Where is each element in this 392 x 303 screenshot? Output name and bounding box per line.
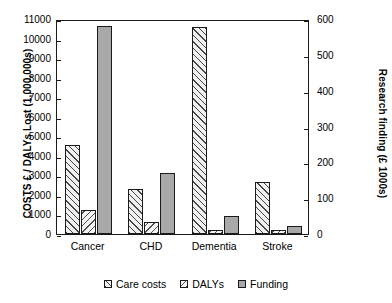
legend-item-dalys[interactable]: DALYs — [180, 278, 224, 290]
left-axis-tick-label: 3000 — [29, 171, 51, 181]
right-axis-tick-label: 200 — [317, 158, 334, 168]
left-axis-tick-label: 9000 — [29, 54, 51, 64]
right-axis-tick — [304, 57, 308, 58]
left-axis-tick — [57, 236, 61, 237]
x-axis-label-stroke: Stroke — [246, 240, 309, 252]
bar-care-costs-cancer — [65, 145, 80, 234]
left-axis-tick — [57, 80, 61, 81]
right-axis-tick-label: 500 — [317, 51, 334, 61]
left-axis-tick — [57, 99, 61, 100]
right-axis-tick — [304, 164, 308, 165]
left-axis-tick-label: 2000 — [29, 191, 51, 201]
right-axis-tick-label: 600 — [317, 15, 334, 25]
x-axis-label-chd: CHD — [119, 240, 182, 252]
legend-item-funding[interactable]: Funding — [238, 278, 288, 290]
legend-swatch-icon — [104, 280, 112, 288]
left-axis-tick-label: 10000 — [23, 35, 51, 45]
x-axis-label-cancer: Cancer — [56, 240, 119, 252]
bar-dalys-chd — [144, 222, 159, 234]
right-y-axis-title: Research finding (£ 1000s) — [377, 49, 388, 219]
left-axis-tick-label: 11000 — [24, 15, 51, 25]
bar-funding-dementia — [224, 216, 239, 234]
bar-chart-figure: COSTS £ / DALYs Lost (1,000,000s) Resear… — [0, 0, 392, 303]
legend-label: Care costs — [116, 278, 166, 290]
right-axis-tick — [304, 93, 308, 94]
bar-funding-cancer — [97, 26, 112, 234]
bar-dalys-dementia — [208, 230, 223, 234]
bar-care-costs-stroke — [255, 182, 270, 234]
right-axis-tick — [304, 129, 308, 130]
right-axis-tick — [304, 200, 308, 201]
bar-funding-chd — [160, 173, 175, 234]
left-axis-tick — [57, 119, 61, 120]
right-axis-tick-label: 400 — [317, 87, 334, 97]
bar-dalys-stroke — [271, 230, 286, 234]
left-axis-tick-label: 4000 — [29, 152, 51, 162]
left-axis-tick — [57, 177, 61, 178]
left-axis-tick-label: 8000 — [29, 74, 51, 84]
left-axis-tick — [57, 41, 61, 42]
plot-area — [56, 20, 309, 235]
left-axis-tick-label: 6000 — [29, 113, 51, 123]
bar-care-costs-chd — [128, 189, 143, 234]
left-axis-tick — [57, 60, 61, 61]
chart-legend: Care costsDALYsFunding — [0, 278, 392, 290]
left-axis-tick — [57, 138, 61, 139]
legend-label: DALYs — [192, 278, 224, 290]
right-axis-tick-label: 0 — [317, 230, 323, 240]
right-axis-tick-label: 300 — [317, 123, 334, 133]
bar-dalys-cancer — [81, 210, 96, 234]
legend-swatch-icon — [180, 280, 188, 288]
bar-care-costs-dementia — [192, 27, 207, 234]
legend-label: Funding — [250, 278, 288, 290]
legend-item-care-costs[interactable]: Care costs — [104, 278, 166, 290]
right-axis-tick — [304, 236, 308, 237]
left-axis-tick-label: 5000 — [29, 132, 51, 142]
bar-funding-stroke — [287, 226, 302, 234]
legend-swatch-icon — [238, 280, 246, 288]
right-axis-tick-label: 100 — [317, 194, 334, 204]
left-axis-tick-label: 1000 — [29, 210, 51, 220]
right-axis-tick — [304, 21, 308, 22]
left-axis-tick — [57, 197, 61, 198]
left-axis-tick — [57, 216, 61, 217]
left-axis-tick — [57, 158, 61, 159]
x-axis-label-dementia: Dementia — [183, 240, 246, 252]
left-axis-tick-label: 0 — [45, 230, 51, 240]
left-axis-tick — [57, 21, 61, 22]
left-axis-tick-label: 7000 — [29, 93, 51, 103]
